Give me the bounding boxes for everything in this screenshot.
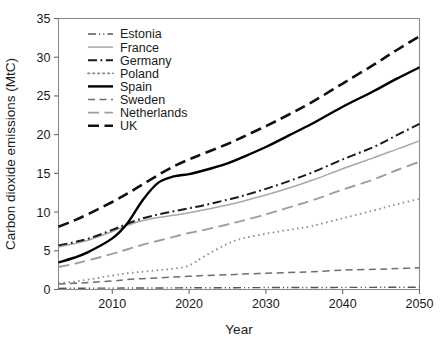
legend-label-poland: Poland	[120, 67, 159, 81]
x-tick-label: 2010	[98, 297, 126, 311]
x-tick-label: 2040	[329, 297, 357, 311]
legend-label-estonia: Estonia	[120, 27, 162, 41]
y-tick-label: 10	[37, 206, 51, 220]
y-tick-label: 0	[44, 283, 51, 297]
legend-label-sweden: Sweden	[120, 93, 165, 107]
x-tick-label: 2030	[252, 297, 280, 311]
chart-figure: 05101520253035 20102020203020402050 Esto…	[0, 0, 440, 341]
line-chart: 05101520253035 20102020203020402050 Esto…	[0, 0, 440, 341]
x-tick-label: 2020	[175, 297, 203, 311]
legend-label-netherlands: Netherlands	[120, 106, 187, 120]
legend-label-germany: Germany	[120, 54, 172, 68]
y-tick-label: 25	[37, 89, 51, 103]
x-axis-title: Year	[225, 322, 253, 337]
y-tick-label: 35	[37, 12, 51, 26]
y-tick-label: 15	[37, 167, 51, 181]
legend-label-uk: UK	[120, 119, 138, 133]
y-tick-label: 20	[37, 128, 51, 142]
y-tick-label: 5	[44, 244, 51, 258]
legend-label-spain: Spain	[120, 80, 152, 94]
legend-label-france: France	[120, 41, 159, 55]
x-tick-label: 2050	[406, 297, 434, 311]
y-tick-label: 30	[37, 51, 51, 65]
y-axis-title: Carbon dioxide emissions (MtC)	[3, 58, 18, 250]
